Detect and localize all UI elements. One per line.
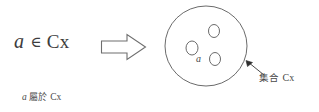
set-boundary-circle [165,6,247,86]
membership-formula: a∈Cx [14,29,70,55]
formula-caption: a屬於Cx [22,91,61,103]
set-diagram [158,2,266,98]
set-member-2 [209,25,220,38]
formula-set-name: Cx [47,31,70,52]
element-of-symbol: ∈ [30,34,41,50]
leader-arrow-icon [246,61,253,67]
annotation-set-name: Cx [283,72,295,83]
caption-cjk-text: 屬於 [29,92,47,102]
set-member-3 [210,53,221,66]
figure-canvas: a∈Cx a屬於Cx a 集合Cx [0,0,319,112]
set-member-a-label: a [196,54,201,64]
formula-variable: a [14,30,24,52]
caption-variable: a [22,92,27,102]
caption-set-name: Cx [50,92,61,102]
block-arrow-right-icon [100,32,148,62]
set-annotation: 集合Cx [259,72,294,84]
annotation-cjk-text: 集合 [259,72,280,83]
